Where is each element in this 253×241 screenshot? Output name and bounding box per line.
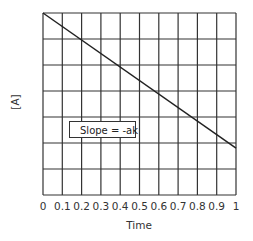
x-tick-label: 0.5 xyxy=(131,200,148,212)
x-tick-label: 0.6 xyxy=(150,200,167,212)
x-tick-label: 0 xyxy=(40,200,47,212)
x-tick-label: 0.8 xyxy=(189,200,206,212)
x-tick-label: 0.7 xyxy=(170,200,187,212)
x-tick-label: 0.3 xyxy=(93,200,110,212)
x-tick-label: 0.9 xyxy=(208,200,225,212)
x-axis-label: Time xyxy=(126,219,152,231)
x-tick-label: 1 xyxy=(233,200,240,212)
y-axis-label: [A] xyxy=(9,94,21,109)
slope-annotation: Slope = -ak xyxy=(69,121,136,138)
x-tick-label: 0.2 xyxy=(73,200,90,212)
x-tick-label: 0.1 xyxy=(54,200,71,212)
grid-lines xyxy=(43,13,236,195)
x-tick-label: 0.4 xyxy=(112,200,129,212)
